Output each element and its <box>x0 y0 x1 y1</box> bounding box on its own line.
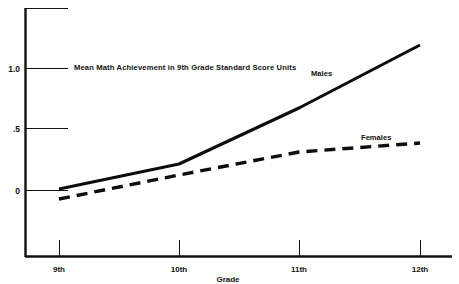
series-label-females: Females <box>361 133 391 142</box>
x-tick-label-12th: 12th <box>412 265 429 274</box>
x-tick-label-9th: 9th <box>53 265 65 274</box>
x-tick-label-11th: 11th <box>291 265 307 274</box>
x-tick-label-10th: 10th <box>171 265 188 274</box>
chart-title: Mean Math Achievement in 9th Grade Stand… <box>74 63 296 72</box>
x-axis-title: Grade <box>216 275 240 284</box>
series-label-males: Males <box>311 69 332 78</box>
y-tick-label-1-0: 1.0 <box>8 64 20 74</box>
chart-page: 1.0 .5 0 9th 10th 11th 12th Grade Mean M… <box>0 0 459 284</box>
y-tick-label-0: 0 <box>15 186 20 196</box>
series-line-females <box>59 143 420 199</box>
line-chart: 1.0 .5 0 9th 10th 11th 12th Grade Mean M… <box>0 0 459 284</box>
y-tick-label-0-5: .5 <box>13 124 20 134</box>
